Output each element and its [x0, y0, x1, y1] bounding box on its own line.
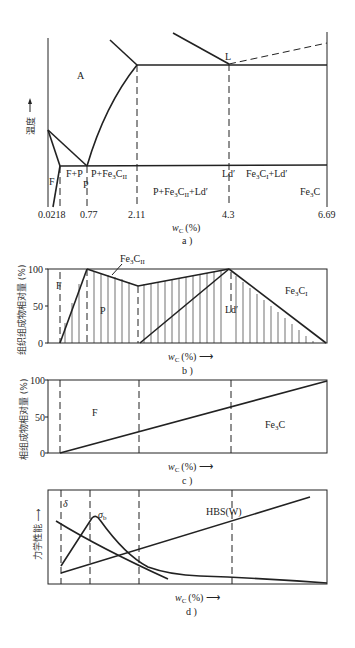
panel-a-phase-diagram: A L F F+P P P+Fe3CII P+Fe3CII+Ld′ Ld′ Fe…: [25, 32, 336, 247]
label-Fe3C: Fe3C: [265, 419, 286, 432]
panel-b-ylabel: 组织组成物相对量 (%): [16, 265, 27, 355]
label-delta: δ: [63, 498, 68, 509]
panel-c-ylabel: 相组成物相对量 (%): [18, 379, 29, 460]
label-P-Fe3CII-Ld: P+Fe3CII+Ld′: [153, 186, 208, 199]
panel-d-caption: d ): [186, 606, 197, 618]
label-F: F: [49, 176, 55, 187]
x-tick-6.69: 6.69: [318, 209, 336, 220]
label-F: F: [92, 407, 98, 418]
label-A: A: [77, 70, 85, 81]
panel-c-phase-amounts: 100 50 0 F Fe3C 相组成物相对量 (%) wC(%) ⟶ c ): [18, 375, 327, 487]
label-Fe3CII: Fe3CII: [120, 253, 146, 266]
label-P: P: [83, 179, 89, 190]
y-tick-100: 100: [28, 264, 43, 275]
y-tick-50: 50: [33, 301, 43, 312]
iron-carbon-diagram: A L F F+P P P+Fe3CII P+Fe3CII+Ld′ Ld′ Fe…: [0, 0, 355, 648]
label-Ld: Ld′: [225, 304, 238, 315]
y-tick-0: 0: [38, 338, 43, 349]
label-F-P: F+P: [66, 168, 83, 179]
x-tick-0.77: 0.77: [80, 209, 98, 220]
panel-c-xlabel: wC(%) ⟶: [168, 461, 213, 474]
label-Ld: Ld′: [222, 168, 235, 179]
x-tick-0.0218: 0.0218: [38, 209, 66, 220]
label-P-Fe3CII: P+Fe3CII: [91, 168, 128, 181]
y-tick-50: 50: [35, 412, 45, 423]
label-F: F: [56, 280, 62, 291]
x-tick-2.11: 2.11: [128, 209, 145, 220]
panel-d-ylabel: 力学性能 ⟶: [32, 508, 43, 560]
panel-b-structure-amounts: 100 50 0 F P Ld′ Fe3CI Fe3CII 组织组成物相对量 (…: [16, 253, 327, 377]
label-Fe3CI-Ld: Fe3CI+Ld′: [246, 168, 287, 181]
label-P: P: [100, 305, 106, 316]
y-tick-100: 100: [30, 375, 45, 386]
label-Fe3C: Fe3C: [300, 186, 321, 199]
panel-d-xlabel: wC(%) ⟶: [175, 592, 220, 605]
x-tick-4.3: 4.3: [222, 209, 235, 220]
panel-c-caption: c ): [182, 475, 192, 487]
label-L: L: [225, 51, 231, 62]
label-hbs: HBS(W): [206, 506, 242, 518]
panel-d-mechanical-properties: δ σb HBS(W) 力学性能 ⟶ wC(%) ⟶ d ): [32, 490, 327, 618]
y-tick-0: 0: [40, 448, 45, 459]
panel-b-xlabel: wC(%) ⟶: [168, 351, 213, 364]
panel-b-caption: b ): [182, 365, 193, 377]
panel-a-ylabel: 温度: [25, 117, 36, 135]
panel-a-xlabel: wC(%): [172, 222, 200, 235]
label-Fe3CI: Fe3CI: [285, 285, 308, 298]
panel-a-caption: a ): [182, 235, 192, 247]
